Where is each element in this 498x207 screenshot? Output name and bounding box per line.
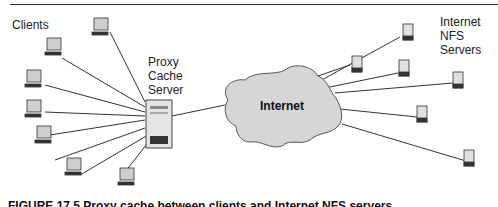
internet-label: Internet (260, 99, 304, 113)
nfs-label-line: Servers (440, 43, 481, 57)
network-diagram (0, 0, 498, 207)
nfs-label-line: NFS (440, 29, 481, 43)
proxy-label: Proxy Cache Server (148, 55, 183, 97)
proxy-label-line: Cache (148, 69, 183, 83)
proxy-server-icon (146, 100, 172, 148)
nfs-servers-label: Internet NFS Servers (440, 15, 481, 57)
proxy-label-line: Server (148, 83, 183, 97)
client-computers (25, 18, 134, 185)
figure-caption: FIGURE 17.5 Proxy cache between clients … (8, 199, 392, 207)
nfs-label-line: Internet (440, 15, 481, 29)
clients-label: Clients (12, 18, 49, 32)
proxy-label-line: Proxy (148, 55, 183, 69)
